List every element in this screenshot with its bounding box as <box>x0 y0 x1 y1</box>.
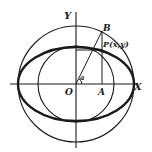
y-axis-label: Y <box>64 10 72 21</box>
angle-label: a <box>80 73 85 82</box>
point-b-label: B <box>102 23 111 33</box>
origin-label: O <box>65 87 73 97</box>
point-p-label: P(x,y) <box>102 39 129 49</box>
ellipse-construction-diagram: Y X O A B P(x,y) a <box>0 0 152 152</box>
x-axis-label: X <box>133 81 143 92</box>
point-a-label: A <box>97 87 105 97</box>
